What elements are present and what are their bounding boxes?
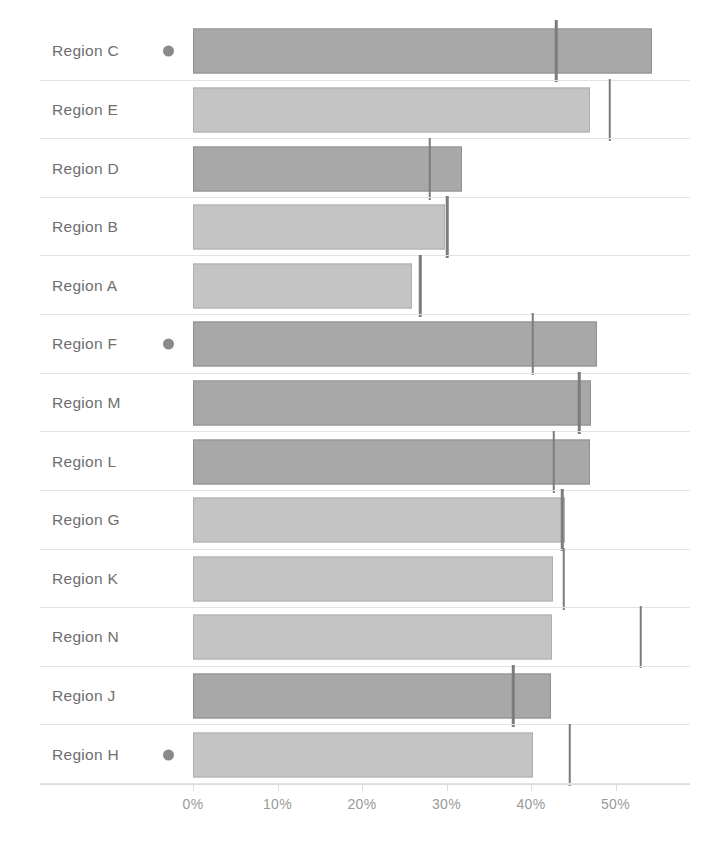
- x-axis: 0%10%20%30%40%50%: [0, 784, 708, 844]
- value-bar[interactable]: [193, 674, 551, 719]
- reference-marker: [428, 138, 431, 200]
- row-category-label: Region A: [52, 277, 117, 295]
- reference-marker: [640, 606, 643, 668]
- value-bar[interactable]: [193, 615, 552, 660]
- chart-row[interactable]: Region L: [0, 432, 708, 491]
- x-axis-tick-label: 30%: [432, 796, 461, 812]
- row-marker-dot-icon: [163, 749, 174, 760]
- row-category-label: Region M: [52, 394, 121, 412]
- x-axis-tick: [278, 784, 279, 791]
- x-axis-tick: [193, 784, 194, 791]
- reference-marker: [569, 724, 572, 786]
- reference-marker: [512, 665, 515, 727]
- x-axis-tick: [531, 784, 532, 791]
- reference-marker: [555, 20, 558, 82]
- value-bar[interactable]: [193, 146, 462, 191]
- reference-marker: [553, 431, 556, 493]
- value-bar[interactable]: [193, 322, 597, 367]
- chart-row[interactable]: Region M: [0, 374, 708, 433]
- row-category-label: Region E: [52, 101, 118, 119]
- x-axis-tick: [447, 784, 448, 791]
- reference-marker: [446, 196, 449, 258]
- chart-rows-area: Region CRegion ERegion DRegion BRegion A…: [0, 22, 708, 784]
- row-category-label: Region F: [52, 335, 117, 353]
- x-axis-line: [40, 784, 690, 785]
- reference-marker: [608, 79, 611, 141]
- chart-row[interactable]: Region E: [0, 81, 708, 140]
- x-axis-tick-label: 20%: [347, 796, 376, 812]
- x-axis-tick: [362, 784, 363, 791]
- chart-row[interactable]: Region A: [0, 256, 708, 315]
- reference-marker: [561, 489, 564, 551]
- bar-chart: Region CRegion ERegion DRegion BRegion A…: [0, 0, 708, 861]
- row-category-label: Region J: [52, 687, 116, 705]
- value-bar[interactable]: [193, 498, 565, 543]
- value-bar[interactable]: [193, 29, 652, 74]
- row-category-label: Region L: [52, 453, 116, 471]
- chart-row[interactable]: Region J: [0, 667, 708, 726]
- value-bar[interactable]: [193, 87, 590, 132]
- value-bar[interactable]: [193, 205, 445, 250]
- value-bar[interactable]: [193, 263, 412, 308]
- chart-row[interactable]: Region B: [0, 198, 708, 257]
- row-category-label: Region N: [52, 628, 119, 646]
- x-axis-tick: [616, 784, 617, 791]
- x-axis-tick-label: 40%: [516, 796, 545, 812]
- reference-marker: [578, 372, 581, 434]
- value-bar[interactable]: [193, 439, 590, 484]
- chart-row[interactable]: Region K: [0, 550, 708, 609]
- x-axis-tick-label: 10%: [263, 796, 292, 812]
- chart-row[interactable]: Region H: [0, 725, 708, 784]
- row-category-label: Region K: [52, 570, 118, 588]
- reference-marker: [531, 313, 534, 375]
- chart-row[interactable]: Region C: [0, 22, 708, 81]
- x-axis-tick-label: 0%: [182, 796, 203, 812]
- chart-row[interactable]: Region F: [0, 315, 708, 374]
- row-category-label: Region B: [52, 218, 118, 236]
- row-category-label: Region C: [52, 42, 119, 60]
- value-bar[interactable]: [193, 732, 533, 777]
- x-axis-tick-label: 50%: [601, 796, 630, 812]
- value-bar[interactable]: [193, 556, 553, 601]
- row-category-label: Region D: [52, 160, 119, 178]
- row-category-label: Region G: [52, 511, 120, 529]
- reference-marker: [419, 255, 422, 317]
- chart-row[interactable]: Region D: [0, 139, 708, 198]
- chart-row[interactable]: Region G: [0, 491, 708, 550]
- value-bar[interactable]: [193, 380, 591, 425]
- row-marker-dot-icon: [163, 46, 174, 57]
- chart-row[interactable]: Region N: [0, 608, 708, 667]
- row-category-label: Region H: [52, 746, 119, 764]
- reference-marker: [563, 548, 566, 610]
- row-marker-dot-icon: [163, 339, 174, 350]
